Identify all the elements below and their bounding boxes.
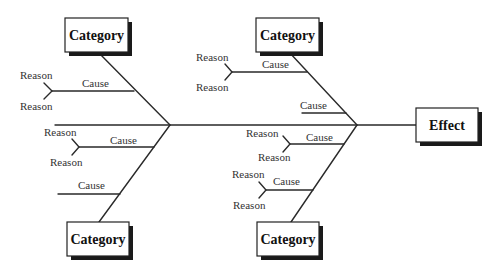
category-label: Category xyxy=(69,28,124,43)
fishbone-diagram: Category Cause Reason Reason Category Ca… xyxy=(0,0,501,274)
category-label: Category xyxy=(260,232,315,247)
reason-fork xyxy=(259,182,266,198)
reason-label: Reason xyxy=(44,126,77,138)
category-bottom-right: Category xyxy=(257,222,323,260)
reason-fork xyxy=(225,64,232,80)
category-top-right: Category xyxy=(256,18,323,56)
reason-label: Reason xyxy=(50,156,83,168)
cause-bottom-right-2: Cause Reason Reason xyxy=(232,168,313,211)
cause-label: Cause xyxy=(262,58,289,70)
cause-label: Cause xyxy=(306,131,333,143)
cause-label: Cause xyxy=(110,134,137,146)
cause-bottom-right-1: Cause Reason Reason xyxy=(246,127,344,163)
reason-fork xyxy=(283,136,290,152)
reason-label: Reason xyxy=(20,100,53,112)
cause-label: Cause xyxy=(82,77,109,89)
cause-top-right-1: Cause Reason Reason xyxy=(196,51,307,93)
reason-label: Reason xyxy=(258,151,291,163)
reason-label: Reason xyxy=(232,168,265,180)
reason-label: Reason xyxy=(233,199,266,211)
branch-top-right xyxy=(289,52,357,125)
category-top-left: Category xyxy=(65,18,132,56)
effect: Effect xyxy=(416,108,482,146)
cause-bottom-left-1: Cause Reason Reason xyxy=(44,126,154,168)
cause-label: Cause xyxy=(273,175,300,187)
cause-label: Cause xyxy=(300,99,327,111)
reason-label: Reason xyxy=(196,51,229,63)
reason-fork xyxy=(44,83,52,99)
category-label: Category xyxy=(260,28,315,43)
cause-label: Cause xyxy=(78,179,105,191)
category-bottom-left: Category xyxy=(67,222,133,260)
reason-label: Reason xyxy=(246,127,279,139)
reason-fork xyxy=(72,139,79,155)
reason-label: Reason xyxy=(20,69,53,81)
effect-label: Effect xyxy=(429,118,465,133)
reason-label: Reason xyxy=(196,81,229,93)
cause-top-left-1: Cause Reason Reason xyxy=(20,69,134,112)
cause-bottom-left-2: Cause xyxy=(58,179,120,194)
category-label: Category xyxy=(70,232,125,247)
